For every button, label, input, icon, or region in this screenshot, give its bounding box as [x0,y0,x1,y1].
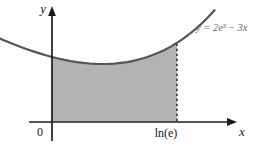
y-axis-arrowhead-icon [48,6,56,16]
x-axis-label: x [238,124,245,139]
shaded-region [52,43,177,122]
equation-superscript: x [222,21,227,30]
equation-lead: y = 2e [195,22,223,33]
x-tick-label: ln(e) [155,126,178,140]
plot-canvas: y x 0 ln(e) y = 2ex− 3x [0,0,261,147]
equation-label: y = 2ex− 3x [195,21,248,34]
integral-area-diagram: y x 0 ln(e) y = 2ex− 3x [0,0,261,147]
origin-label: 0 [37,125,43,139]
y-axis-label: y [38,1,46,16]
equation-tail: − 3x [228,22,248,33]
curve [0,10,215,64]
x-axis-arrowhead-icon [227,118,237,126]
